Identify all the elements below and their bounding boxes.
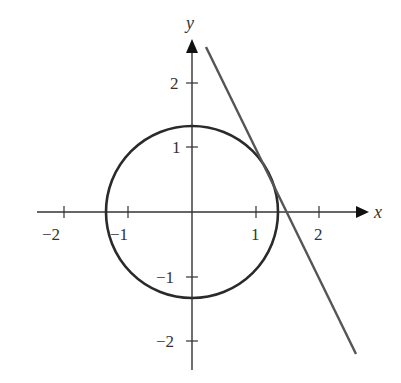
tangent-line bbox=[206, 47, 356, 354]
x-tick-label: −2 bbox=[42, 225, 60, 244]
x-tick-label: 2 bbox=[314, 225, 323, 244]
x-axis-label: x bbox=[373, 202, 382, 222]
x-axis-arrow-icon bbox=[356, 206, 369, 218]
y-tick-label: 1 bbox=[172, 138, 181, 157]
x-tick-label: −1 bbox=[110, 225, 128, 244]
y-tick-label: 2 bbox=[170, 74, 179, 93]
y-tick-label: −2 bbox=[156, 332, 174, 351]
y-tick-label: −1 bbox=[156, 268, 174, 287]
y-axis-arrow-icon bbox=[186, 39, 198, 53]
y-axis-label: y bbox=[184, 13, 194, 33]
x-tick-label: 1 bbox=[251, 225, 260, 244]
chart: x y −2 −1 1 2 2 1 −1 −2 bbox=[0, 0, 401, 383]
